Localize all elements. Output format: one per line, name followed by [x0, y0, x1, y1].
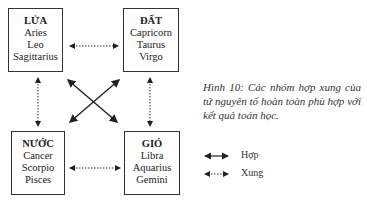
group-box-water: NƯỚC Cancer Scorpio Pisces	[11, 131, 65, 195]
compatible-arrow-earth-water	[70, 80, 119, 122]
group-box-earth: ĐẤT Capricorn Taurus Virgo	[123, 8, 179, 72]
sign-label: Taurus	[124, 39, 178, 51]
sign-label: Cancer	[12, 150, 64, 162]
sign-label: Pisces	[12, 174, 64, 186]
legend-conflict-label: Xung	[241, 167, 263, 178]
figure-caption: Hình 10: Các nhóm hợp xung của tứ nguyên…	[203, 80, 361, 122]
group-box-air: GIÓ Libra Aquarius Gemini	[124, 131, 180, 195]
sign-label: Aries	[9, 27, 62, 39]
group-title: LỬA	[9, 15, 62, 27]
compatible-arrow-fire-air	[68, 80, 117, 122]
group-title: NƯỚC	[12, 138, 64, 150]
legend-compatible-label: Hợp	[241, 149, 259, 160]
sign-label: Virgo	[124, 51, 178, 63]
sign-label: Aquarius	[125, 162, 179, 174]
group-box-fire: LỬA Aries Leo Sagittarius	[8, 8, 63, 72]
sign-label: Libra	[125, 150, 179, 162]
sign-label: Sagittarius	[9, 51, 62, 63]
sign-label: Gemini	[125, 174, 179, 186]
sign-label: Scorpio	[12, 162, 64, 174]
group-title: ĐẤT	[124, 15, 178, 27]
sign-label: Leo	[9, 39, 62, 51]
group-title: GIÓ	[125, 138, 179, 150]
sign-label: Capricorn	[124, 27, 178, 39]
